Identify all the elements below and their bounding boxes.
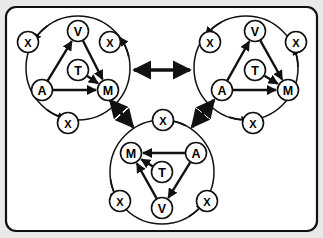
inner-node-cluster-left-M: M bbox=[98, 80, 119, 101]
outer-node-cluster-left-X3: X bbox=[58, 113, 79, 134]
node-label: A bbox=[37, 84, 46, 98]
inner-node-cluster-left-A: A bbox=[32, 80, 53, 101]
node-label: X bbox=[24, 37, 32, 49]
inner-node-cluster-bottom-M: M bbox=[121, 143, 142, 164]
node-label: T bbox=[158, 166, 166, 180]
node-label: X bbox=[206, 37, 214, 49]
figure-container: VTAMXXXVTAMXXXVTAMXXX bbox=[0, 0, 323, 238]
node-label: X bbox=[106, 37, 114, 49]
node-label: M bbox=[283, 84, 293, 98]
node-label: A bbox=[217, 84, 226, 98]
outer-node-cluster-right-X2: X bbox=[286, 32, 307, 53]
node-label: X bbox=[292, 37, 300, 49]
node-label: M bbox=[126, 147, 136, 161]
inner-node-cluster-right-T: T bbox=[245, 60, 266, 81]
node-label: M bbox=[103, 84, 113, 98]
inner-node-cluster-left-V: V bbox=[68, 21, 89, 42]
node-label: A bbox=[191, 147, 200, 161]
inner-node-cluster-right-V: V bbox=[245, 21, 266, 42]
outer-node-cluster-right-X1: X bbox=[200, 32, 221, 53]
outer-node-cluster-bottom-X2: X bbox=[110, 191, 131, 212]
inner-node-cluster-right-M: M bbox=[278, 80, 299, 101]
inner-node-cluster-bottom-V: V bbox=[152, 198, 173, 219]
inner-node-cluster-bottom-T: T bbox=[152, 162, 173, 183]
diagram-canvas: VTAMXXXVTAMXXXVTAMXXX bbox=[0, 0, 323, 238]
outer-node-cluster-bottom-X1: X bbox=[153, 110, 174, 131]
outer-node-cluster-right-X3: X bbox=[243, 113, 264, 134]
outer-node-cluster-left-X1: X bbox=[18, 32, 39, 53]
node-label: V bbox=[74, 25, 83, 39]
node-label: T bbox=[251, 64, 259, 78]
node-label: T bbox=[74, 64, 82, 78]
outer-node-cluster-bottom-X3: X bbox=[197, 191, 218, 212]
node-label: V bbox=[158, 202, 167, 216]
inner-node-cluster-right-A: A bbox=[212, 80, 233, 101]
outer-node-cluster-left-X2: X bbox=[100, 32, 121, 53]
node-label: X bbox=[203, 196, 211, 208]
node-label: V bbox=[251, 25, 260, 39]
node-label: X bbox=[64, 118, 72, 130]
node-label: X bbox=[159, 115, 167, 127]
node-label: X bbox=[249, 118, 257, 130]
inner-node-cluster-left-T: T bbox=[68, 60, 89, 81]
node-label: X bbox=[116, 196, 124, 208]
inner-node-cluster-bottom-A: A bbox=[186, 143, 207, 164]
